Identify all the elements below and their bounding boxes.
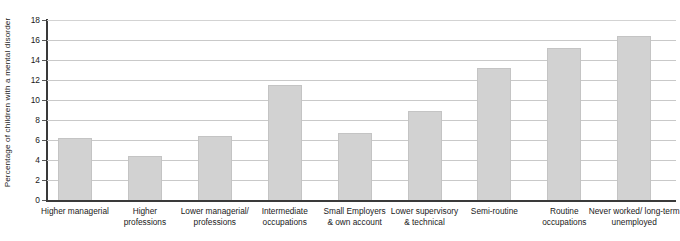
y-tick-mark-6 [42,140,46,141]
bar [338,133,372,200]
gridline-16 [47,40,676,41]
y-tick-label-10: 10 [18,96,40,104]
y-axis-title: Percentage of children with a mental dis… [0,0,16,205]
y-tick-label-16: 16 [18,36,40,44]
y-tick-mark-8 [42,120,46,121]
bar [617,36,651,200]
bar [547,48,581,200]
y-tick-label-14: 14 [18,56,40,64]
y-tick-mark-4 [42,160,46,161]
y-tick-label-12: 12 [18,76,40,84]
y-tick-mark-14 [42,60,46,61]
y-tick-label-4: 4 [18,156,40,164]
y-tick-label-18: 18 [18,16,40,24]
y-tick-mark-2 [42,180,46,181]
x-axis-line [46,200,676,202]
y-tick-mark-18 [42,20,46,21]
plot-area [47,20,676,200]
bar [268,85,302,200]
bar [477,68,511,200]
y-tick-mark-0 [42,200,46,201]
bar [128,156,162,200]
y-tick-mark-16 [42,40,46,41]
y-tick-label-6: 6 [18,136,40,144]
y-axis-title-text: Percentage of children with a mental dis… [4,18,13,188]
bar-chart: Percentage of children with a mental dis… [0,0,680,241]
y-tick-mark-12 [42,80,46,81]
gridline-12 [47,80,676,81]
gridline-18 [47,20,676,21]
y-tick-mark-10 [42,100,46,101]
bar [58,138,92,200]
x-category-label: Never worked/ long-term unemployed [586,206,680,228]
gridline-10 [47,100,676,101]
y-tick-label-2: 2 [18,176,40,184]
gridline-8 [47,120,676,121]
gridline-14 [47,60,676,61]
bar [198,136,232,200]
y-tick-label-0: 0 [18,196,40,204]
bar [408,111,442,200]
y-tick-label-8: 8 [18,116,40,124]
